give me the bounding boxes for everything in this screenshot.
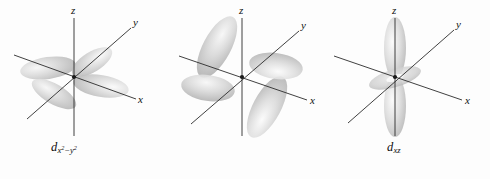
orbital-panel-d-x2-y2: z y x dx2−y2 (0, 0, 163, 179)
orbital-lobe (247, 49, 304, 82)
nucleus (72, 75, 76, 79)
orbital-lobe (189, 10, 246, 83)
y-axis-label: y (455, 18, 461, 30)
d-orbital-figure: z y x dx2−y2 (0, 0, 490, 179)
orbital-panel-d-z2: z y x dz2 (326, 0, 489, 179)
orbital-panel-d-xz: z y x dxz (163, 0, 326, 179)
nucleus (393, 75, 397, 79)
x-axis-label: x (137, 93, 143, 105)
y-axis-label: y (300, 19, 306, 31)
orbital-lobe (19, 53, 78, 83)
z-axis-label: z (391, 4, 397, 16)
orbital-label-d-x2-y2: dx2−y2 (51, 140, 77, 155)
orbital-lobe (239, 70, 296, 143)
orbital-label-sub-exp2: 2 (74, 145, 77, 151)
nucleus (240, 75, 244, 79)
orbital-lobe (179, 71, 236, 104)
z-axis-label: z (238, 4, 244, 16)
y-axis-label: y (132, 16, 138, 28)
x-axis-label: x (464, 94, 470, 106)
z-axis-label: z (70, 4, 76, 16)
x-axis-label: x (309, 94, 315, 106)
